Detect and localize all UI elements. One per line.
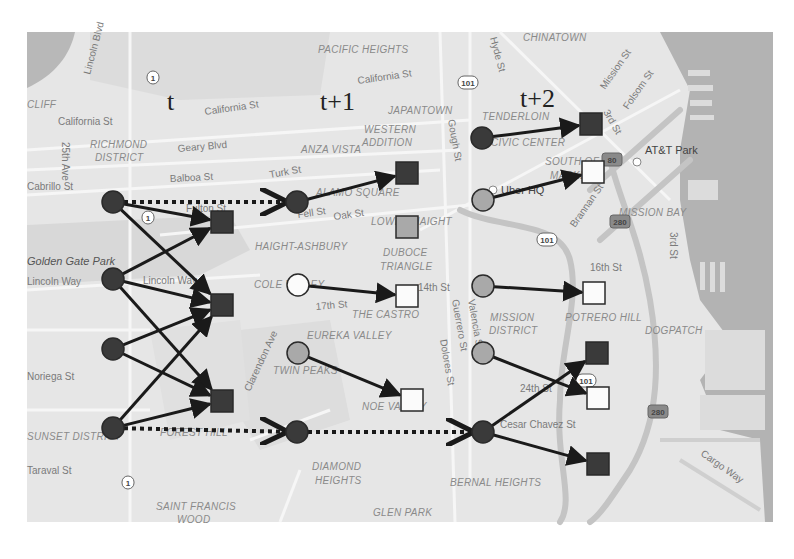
district-label: HEIGHTS (315, 475, 362, 486)
district-label: SAINT FRANCIS (156, 501, 236, 512)
district-label: GLEN PARK (373, 507, 433, 518)
district-label: CLIFF (27, 99, 57, 110)
svg-text:1: 1 (126, 479, 131, 488)
circle-node-dark (102, 268, 124, 290)
poi-label: AT&T Park (645, 144, 698, 156)
district-label: MISSION (490, 312, 535, 323)
highway-shield-icon: 101 (458, 76, 478, 89)
svg-text:101: 101 (579, 377, 593, 386)
street-label: Noriega St (27, 371, 74, 382)
map-pin-icon (633, 158, 641, 166)
circle-node-grey (472, 275, 494, 297)
street-label: 3rd St (668, 232, 679, 259)
figure: PACIFIC HEIGHTSCHINATOWNCLIFFRICHMONDDIS… (0, 0, 794, 559)
circle-node-dark (472, 421, 494, 443)
district-label: CIVIC CENTER (491, 137, 565, 148)
time-label-t1: t+1 (320, 87, 355, 116)
circle-node-dark (102, 338, 124, 360)
street-label: Balboa St (170, 171, 214, 184)
highway-shield-icon: 280 (610, 215, 630, 228)
highway-shield-icon: 1 (142, 211, 154, 224)
square-node-dark (211, 390, 233, 412)
street-label: 14th St (418, 282, 450, 293)
street-label: Cesar Chavez St (500, 419, 576, 430)
svg-text:101: 101 (461, 79, 475, 88)
square-node-dark (580, 113, 602, 135)
district-label: WESTERN (364, 124, 417, 135)
district-label: POTRERO HILL (565, 312, 642, 323)
highway-shield-icon: 280 (648, 405, 668, 418)
square-node-white (582, 161, 604, 183)
circle-node-grey (472, 342, 494, 364)
highway-shield-icon: 101 (537, 233, 557, 246)
square-node-dark (586, 342, 608, 364)
district-label: EUREKA VALLEY (307, 330, 393, 341)
square-node-white (396, 285, 418, 307)
highway-shield-icon: 80 (602, 153, 622, 166)
svg-text:101: 101 (540, 236, 554, 245)
district-label: DIAMOND (312, 461, 361, 472)
district-label: PACIFIC HEIGHTS (318, 44, 408, 55)
highway-shield-icon: 101 (576, 374, 596, 387)
circle-node-dark (286, 191, 308, 213)
circle-node-grey (287, 342, 309, 364)
square-node-dark (211, 211, 233, 233)
district-label: DUBOCE (383, 247, 428, 258)
highway-shield-icon: 1 (147, 71, 159, 84)
district-label: RICHMOND (90, 139, 147, 150)
square-node-dark (587, 453, 609, 475)
circle-node-grey (472, 189, 494, 211)
street-label: Lincoln Way (27, 276, 81, 287)
district-label: BERNAL HEIGHTS (450, 477, 541, 488)
svg-text:1: 1 (146, 214, 151, 223)
circle-node-dark (471, 127, 493, 149)
district-label: FOREST HILL (160, 427, 228, 438)
district-label: DOGPATCH (645, 325, 703, 336)
street-label: 25th Ave (60, 142, 71, 181)
district-label: DISTRICT (95, 152, 144, 163)
square-node-dark (396, 162, 418, 184)
map-graph-canvas: PACIFIC HEIGHTSCHINATOWNCLIFFRICHMONDDIS… (0, 0, 794, 559)
district-label: HAIGHT-ASHBURY (255, 241, 348, 252)
district-label: JAPANTOWN (387, 105, 453, 116)
svg-text:1: 1 (151, 74, 156, 83)
street-label: Lincoln Way (143, 275, 197, 286)
highway-shield-icon: 1 (122, 476, 134, 489)
street-label: Cabrillo St (27, 181, 73, 192)
district-label: DISTRICT (489, 325, 538, 336)
poi-label: Golden Gate Park (27, 255, 116, 267)
circle-node-white (287, 274, 309, 296)
street-label: Taraval St (27, 465, 72, 476)
district-label: ADDITION (361, 137, 413, 148)
street-label: 16th St (590, 262, 622, 273)
square-node-white (587, 387, 609, 409)
time-label-t: t (167, 87, 175, 116)
circle-node-dark (102, 417, 124, 439)
svg-text:280: 280 (651, 408, 665, 417)
district-label: CHINATOWN (523, 32, 587, 43)
time-label-t2: t+2 (520, 84, 555, 113)
district-label: THE CASTRO (352, 309, 419, 320)
district-label: ANZA VISTA (300, 144, 361, 155)
svg-text:280: 280 (613, 218, 627, 227)
square-node-grey (396, 216, 418, 238)
circle-node-dark (102, 191, 124, 213)
district-label: WOOD (177, 514, 210, 525)
svg-text:80: 80 (608, 156, 617, 165)
district-label: TRIANGLE (380, 261, 432, 272)
circle-node-dark (286, 421, 308, 443)
street-label: California St (58, 116, 113, 127)
square-node-white (583, 282, 605, 304)
square-node-white (401, 389, 423, 411)
square-node-dark (211, 294, 233, 316)
